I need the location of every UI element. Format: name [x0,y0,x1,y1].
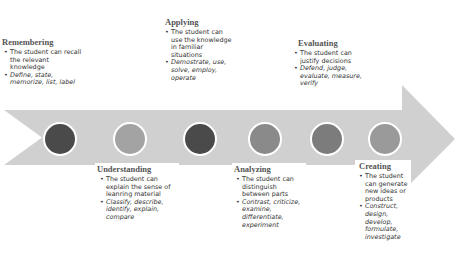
stage-marker-creating [368,122,402,156]
stage-applying: Applying The student can use the knowled… [163,16,235,85]
stage-title: Applying [165,17,233,27]
stage-title: Remembering [2,37,82,47]
stage-verbs: Contrast, criticize, examine, differenti… [236,199,304,229]
stage-remembering: Remembering The student can recall the r… [0,36,84,89]
stage-verbs: Construct, design, develop, formulate, i… [359,203,409,241]
stage-title: Understanding [97,164,177,174]
stage-title: Creating [357,161,409,171]
stage-description: The student can justify decisions [294,50,366,65]
stage-verbs: Define, state, memorize, list, label [4,72,82,87]
stage-marker-applying [183,122,217,156]
stage-marker-remembering [43,122,77,156]
stage-description: The student can distinguish between part… [236,176,304,199]
stage-evaluating: Evaluating The student can justify decis… [292,37,368,90]
stage-marker-evaluating [310,122,344,156]
stage-creating: Creating The student can generate new id… [355,160,411,243]
stage-verbs: Demostrate, use, solve, employ, operate [165,59,233,82]
stage-verbs: Classify, describe, identify, explain, c… [100,199,177,222]
stage-description: The student can recall the relevant know… [4,49,82,72]
stage-understanding: Understanding The student can explain th… [95,163,179,224]
stage-verbs: Defend, judge, evaluate, measure, verify [294,65,366,88]
stage-marker-analyzing [248,122,282,156]
stage-description: The student can generate new ideas or pr… [359,173,409,203]
stage-title: Evaluating [294,38,366,48]
stage-title: Analyzing [234,164,304,174]
stage-marker-understanding [113,122,147,156]
stage-description: The student can use the knowledge in fam… [165,29,233,59]
stage-description: The student can explain the sense of lea… [100,176,177,199]
stage-analyzing: Analyzing The student can distinguish be… [232,163,306,231]
